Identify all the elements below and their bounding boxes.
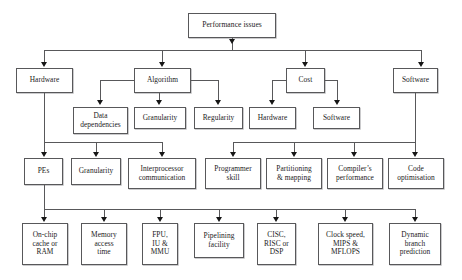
node-memory-access-time: Memory access time: [81, 223, 127, 265]
arrow-to-data-dependencies-icon: [97, 100, 103, 105]
connector-algorithm-left-arm: [100, 80, 134, 81]
arrow-to-regularity-icon: [215, 100, 221, 105]
node-software: Software: [393, 68, 438, 93]
node-on-chip-cache-or-ram: On-chip cache or RAM: [22, 223, 68, 265]
connector-algorithm-drop-regularity: [218, 80, 219, 101]
connector-algorithm-right-arm: [191, 80, 218, 81]
arrow-to-on-chip-cache-icon: [41, 217, 47, 222]
arrow-to-algorithm-icon: [159, 62, 165, 67]
node-software-cost: Software: [313, 107, 360, 129]
arrow-to-hardware-icon: [41, 62, 47, 67]
arrow-to-hardware-cost-icon: [269, 100, 275, 105]
node-performance-issues: Performance issues: [188, 13, 276, 38]
node-dynamic-branch-prediction: Dynamic branch prediction: [389, 223, 441, 265]
arrow-to-programmer-skill-icon: [230, 152, 236, 157]
connector-level3-left-bus: [44, 142, 162, 143]
connector-cost-right-arm: [325, 80, 337, 81]
node-pipelining-facility: Pipelining facility: [194, 223, 244, 258]
arrow-to-memory-access-time-icon: [101, 217, 107, 222]
node-fpu-iu-mmu: FPU, IU & MMU: [142, 223, 178, 265]
arrow-to-pes-icon: [41, 152, 47, 157]
arrow-to-dynamic-branch-icon: [412, 217, 418, 222]
performance-issues-diagram: Performance issues Hardware Algorithm Co…: [0, 0, 462, 280]
arrow-to-fpu-iu-mmu-icon: [157, 217, 163, 222]
node-pes: PEs: [24, 158, 63, 185]
connector-algorithm-drop-data: [100, 80, 101, 101]
node-compilers-performance: Compiler’s performance: [327, 158, 383, 189]
arrow-to-software-cost-icon: [334, 100, 340, 105]
node-hardware-cost: Hardware: [249, 107, 296, 129]
node-cisc-risc-dsp: CISC, RISC or DSP: [257, 223, 296, 265]
arrow-to-interprocessor-icon: [159, 152, 165, 157]
connector-level4-bus: [44, 209, 415, 210]
node-partitioning-mapping: Partitioning & mapping: [266, 158, 322, 189]
node-cost: Cost: [286, 68, 325, 93]
arrow-to-granularity-icon: [93, 152, 99, 157]
node-granularity-algorithm: Granularity: [134, 107, 186, 129]
connector-hardware-stem: [44, 93, 45, 142]
node-granularity: Granularity: [71, 158, 121, 185]
connector-pes-stem: [44, 185, 45, 209]
connector-cost-drop-software: [337, 80, 338, 101]
connector-level1-bus: [44, 50, 422, 51]
arrow-root-down-icon: [229, 39, 235, 44]
node-hardware: Hardware: [16, 68, 73, 93]
arrow-to-software-icon: [418, 62, 424, 67]
arrow-to-pipelining-facility-icon: [216, 217, 222, 222]
arrow-to-cost-icon: [302, 62, 308, 67]
node-clock-speed-mips-mflops: Clock speed, MIPS & MFLOPS: [318, 223, 373, 265]
connector-software-stem: [415, 93, 416, 142]
node-regularity: Regularity: [194, 107, 243, 129]
node-interprocessor-communication: Interprocessor communication: [128, 158, 196, 189]
node-programmer-skill: Programmer skill: [205, 158, 261, 189]
connector-cost-drop-hardware: [272, 80, 273, 101]
arrow-to-cisc-risc-dsp-icon: [273, 217, 279, 222]
arrow-to-clock-speed-icon: [342, 217, 348, 222]
arrow-to-code-optimisation-icon: [412, 152, 418, 157]
arrow-to-granularity-alg-icon: [156, 100, 162, 105]
node-data-dependencies: Data dependencies: [73, 107, 128, 134]
node-algorithm: Algorithm: [134, 68, 191, 93]
arrow-to-partitioning-mapping-icon: [291, 152, 297, 157]
connector-level3-right-bus: [233, 142, 415, 143]
arrow-to-compilers-performance-icon: [351, 152, 357, 157]
node-code-optimisation: Code optimisation: [388, 158, 444, 189]
connector-cost-left-arm: [272, 80, 286, 81]
